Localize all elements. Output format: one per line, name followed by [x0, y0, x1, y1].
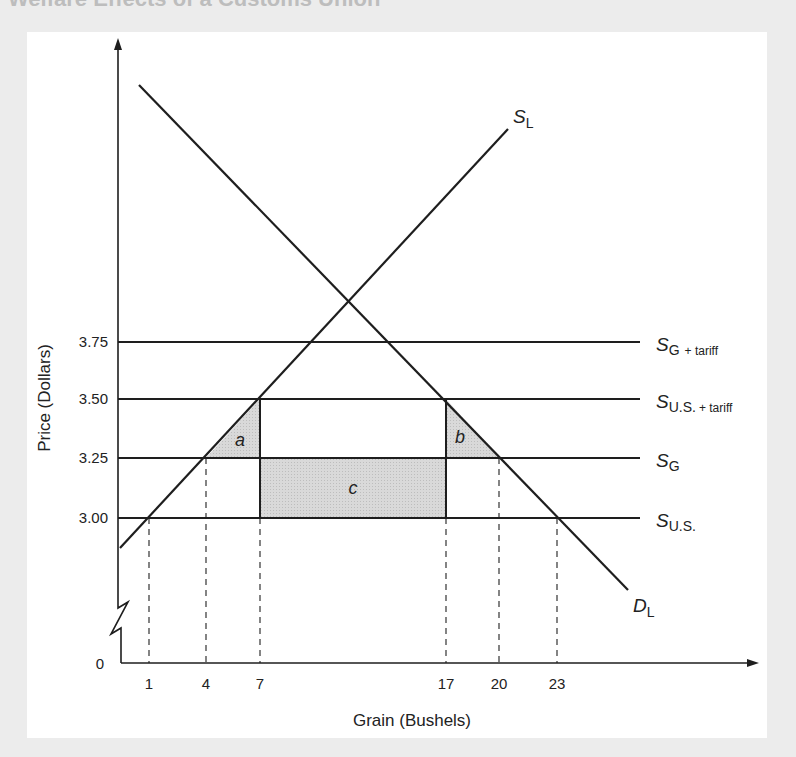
region-a-label: a [235, 430, 245, 450]
svg-text:DL: DL [633, 595, 655, 620]
y-axis-arrow [114, 38, 122, 50]
chart-panel: 3.75 3.50 3.25 3.00 0 1 4 7 17 20 23 Gra… [27, 32, 767, 738]
svg-text:SU.S.+ tariff: SU.S.+ tariff [656, 391, 733, 415]
x-tick-1: 1 [145, 675, 153, 692]
label-sl: SL [513, 106, 534, 131]
label-sus-tariff: SU.S.+ tariff [656, 391, 733, 415]
region-a [206, 399, 260, 458]
y-tick-350: 3.50 [79, 390, 108, 407]
x-axis-title: Grain (Bushels) [353, 711, 471, 730]
svg-text:SG: SG [656, 450, 680, 474]
region-c-label: c [349, 478, 358, 498]
label-sus: SU.S. [656, 510, 696, 534]
x-tick-7: 7 [256, 675, 264, 692]
region-b-label: b [455, 427, 465, 447]
label-sg-tariff: SG+ tariff [656, 334, 719, 358]
label-sg: SG [656, 450, 680, 474]
y-axis [111, 46, 128, 663]
label-dl: DL [633, 595, 655, 620]
y-tick-300: 3.00 [79, 509, 108, 526]
x-tick-4: 4 [202, 675, 210, 692]
x-tick-23: 23 [549, 675, 566, 692]
x-tick-20: 20 [491, 675, 508, 692]
y-tick-375: 3.75 [79, 333, 108, 350]
svg-text:SL: SL [513, 106, 534, 131]
y-axis-title: Price (Dollars) [35, 344, 54, 452]
chart-canvas: 3.75 3.50 3.25 3.00 0 1 4 7 17 20 23 Gra… [27, 32, 767, 738]
x-axis-arrow [747, 659, 759, 667]
y-tick-325: 3.25 [79, 449, 108, 466]
figure-title: Welfare Effects of a Customs Union [0, 0, 796, 10]
origin-label: 0 [96, 655, 104, 672]
svg-text:SU.S.: SU.S. [656, 510, 696, 534]
svg-text:SG+ tariff: SG+ tariff [656, 334, 719, 358]
x-tick-17: 17 [438, 675, 455, 692]
